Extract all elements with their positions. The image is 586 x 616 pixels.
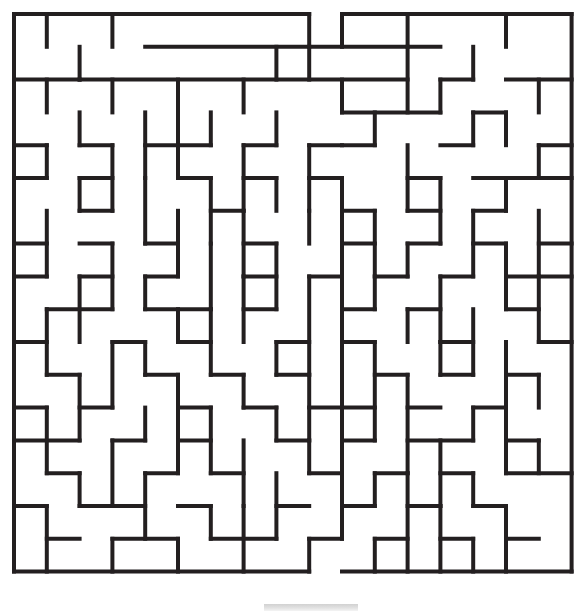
maze-canvas bbox=[0, 0, 586, 616]
scan-shadow-strip bbox=[264, 604, 358, 611]
maze-page bbox=[0, 0, 586, 616]
